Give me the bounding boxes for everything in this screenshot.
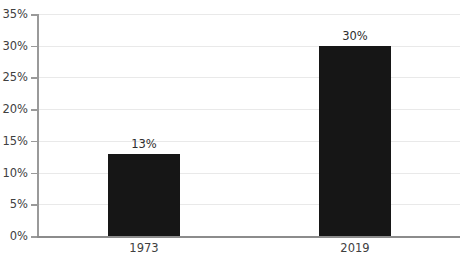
bar-value-label-2019: 30% (289, 30, 421, 43)
y-axis-tick-label: 10% (0, 167, 28, 179)
y-axis-tick-label: 0% (0, 230, 28, 242)
y-axis-line (37, 14, 39, 237)
bar-2019[interactable] (319, 46, 391, 236)
x-axis-category-label-2019: 2019 (289, 242, 421, 255)
plot-area: 0%5%10%15%20%25%30%35% 13%197330%2019 (0, 0, 465, 259)
y-axis-tick-label: 30% (0, 40, 28, 52)
bar-chart: 0%5%10%15%20%25%30%35% 13%197330%2019 (0, 0, 465, 259)
bar-1973[interactable] (108, 154, 180, 236)
x-axis-category-label-1973: 1973 (78, 242, 210, 255)
y-axis-tick-label: 35% (0, 8, 28, 20)
gridline (38, 46, 460, 47)
y-axis-tick-label: 5% (0, 198, 28, 210)
y-axis-tick-label: 20% (0, 103, 28, 115)
gridline (38, 173, 460, 174)
gridline (38, 204, 460, 205)
gridline (38, 109, 460, 110)
y-axis-tick-label: 25% (0, 71, 28, 83)
bar-value-label-1973: 13% (78, 138, 210, 151)
x-axis-line (37, 236, 460, 238)
gridline (38, 14, 460, 15)
y-axis-tick-label: 15% (0, 135, 28, 147)
gridline (38, 77, 460, 78)
